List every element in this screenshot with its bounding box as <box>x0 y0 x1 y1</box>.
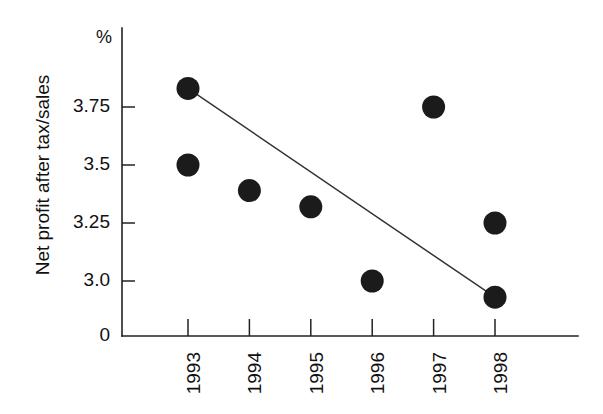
y-tick-label: 0 <box>99 324 110 345</box>
y-tick-label: 3.75 <box>73 95 110 116</box>
trend-line-group <box>188 88 495 297</box>
x-tick-label: 1997 <box>429 352 450 394</box>
y-axis-unit-label: % <box>96 27 112 47</box>
x-tick-label: 1995 <box>306 352 327 394</box>
data-point <box>299 195 322 218</box>
data-point <box>484 212 507 235</box>
x-tick-label: 1996 <box>367 352 388 394</box>
x-tick-label: 1993 <box>183 352 204 394</box>
trend-line <box>188 88 495 297</box>
data-point <box>177 154 200 177</box>
data-point <box>422 96 445 119</box>
data-point <box>177 77 200 100</box>
y-axis-title: Net profit after tax/sales <box>32 75 53 276</box>
data-point <box>484 286 507 309</box>
y-tick-label: 3.5 <box>84 153 110 174</box>
x-tick-label: 1998 <box>490 352 511 394</box>
x-axis-ticks: 199319941995199619971998 <box>183 319 511 394</box>
y-tick-label: 3.25 <box>73 211 110 232</box>
data-point <box>238 179 261 202</box>
scatter-chart: Net profit after tax/sales % 3.753.53.25… <box>0 0 603 414</box>
chart-container: Net profit after tax/sales % 3.753.53.25… <box>0 0 603 414</box>
x-tick-label: 1994 <box>244 352 265 395</box>
y-axis-ticks: 3.753.53.253.00 <box>73 95 135 345</box>
y-tick-label: 3.0 <box>84 269 110 290</box>
data-point <box>361 270 384 293</box>
